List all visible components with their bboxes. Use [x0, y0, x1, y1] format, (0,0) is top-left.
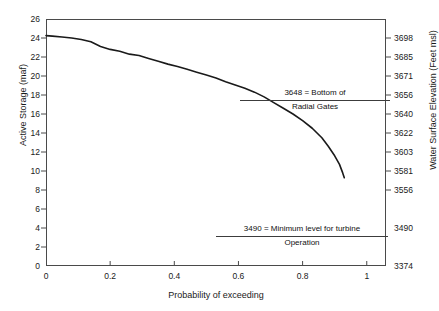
tick-label: 3581 [394, 167, 428, 176]
y2-axis-title: Water Surface Elevation (Feet msl) [428, 15, 438, 185]
tick-label: 3640 [394, 110, 428, 119]
annotation-line-2: Radial Gates [240, 101, 390, 113]
y2-axis-tick-marks [386, 38, 391, 190]
tick-label: 2 [12, 243, 40, 252]
tick-label: 0.6 [223, 272, 253, 281]
chart-screenshot: 02468101214161820222426 3698368536713656… [0, 0, 439, 311]
tick-label: 3698 [394, 34, 428, 43]
tick-label: 3556 [394, 186, 428, 195]
tick-label: 3603 [394, 148, 428, 157]
tick-label: 3671 [394, 72, 428, 81]
tick-label: 0 [12, 262, 40, 271]
tick-label: 0.4 [159, 272, 189, 281]
tick-label: 26 [12, 15, 40, 24]
annotation-minimum-turbine-level: 3490 = Minimum level for turbine Operati… [216, 224, 388, 249]
tick-label: 3374 [394, 262, 428, 271]
tick-label: 3656 [394, 91, 428, 100]
tick-label: 6 [12, 205, 40, 214]
annotation-line-1: 3648 = Bottom of [240, 88, 390, 101]
tick-label: 0.8 [288, 272, 318, 281]
annotation-line-2: Operation [216, 237, 388, 249]
tick-label: 8 [12, 186, 40, 195]
tick-label: 3685 [394, 53, 428, 62]
x-axis-title: Probability of exceeding [46, 290, 386, 300]
annotation-line-1: 3490 = Minimum level for turbine [216, 224, 388, 237]
chart-canvas [0, 0, 439, 311]
annotation-bottom-of-radial-gates: 3648 = Bottom of Radial Gates [240, 88, 390, 113]
tick-label: 4 [12, 224, 40, 233]
tick-label: 3490 [394, 224, 428, 233]
y-axis-title: Active Storage (maf) [18, 30, 28, 180]
y-axis-tick-marks [41, 38, 46, 247]
tick-label: 3622 [394, 129, 428, 138]
x-axis-tick-marks [110, 261, 367, 266]
tick-label: 1 [352, 272, 382, 281]
tick-label: 0 [31, 272, 61, 281]
tick-label: 0.2 [95, 272, 125, 281]
